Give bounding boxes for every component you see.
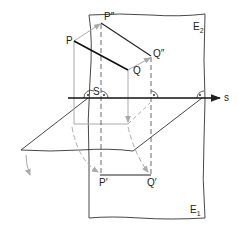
label-E1-sub: 1 xyxy=(197,210,201,217)
label-E2-sub: 2 xyxy=(200,27,204,34)
label-S: S xyxy=(93,87,100,97)
projection-dashed xyxy=(101,24,151,175)
right-angle-markers xyxy=(84,90,204,98)
label-P-prime: P′ xyxy=(99,178,108,188)
label-Q: Q xyxy=(133,66,141,76)
label-E1-main: E xyxy=(190,204,197,215)
label-Q-prime: Q′ xyxy=(147,178,157,188)
segment-P2Q2 xyxy=(101,23,151,56)
label-s-axis: s xyxy=(224,93,229,103)
label-P: P xyxy=(66,36,73,46)
label-E2: E2 xyxy=(193,22,204,34)
projection-diagram xyxy=(0,0,239,231)
construction-lines xyxy=(26,24,150,175)
label-P-double-prime: P″ xyxy=(104,12,114,22)
label-Q-double-prime: Q″ xyxy=(153,49,164,59)
label-E2-main: E xyxy=(193,21,200,32)
label-E1: E1 xyxy=(190,205,201,217)
vertical-plane xyxy=(88,14,205,219)
